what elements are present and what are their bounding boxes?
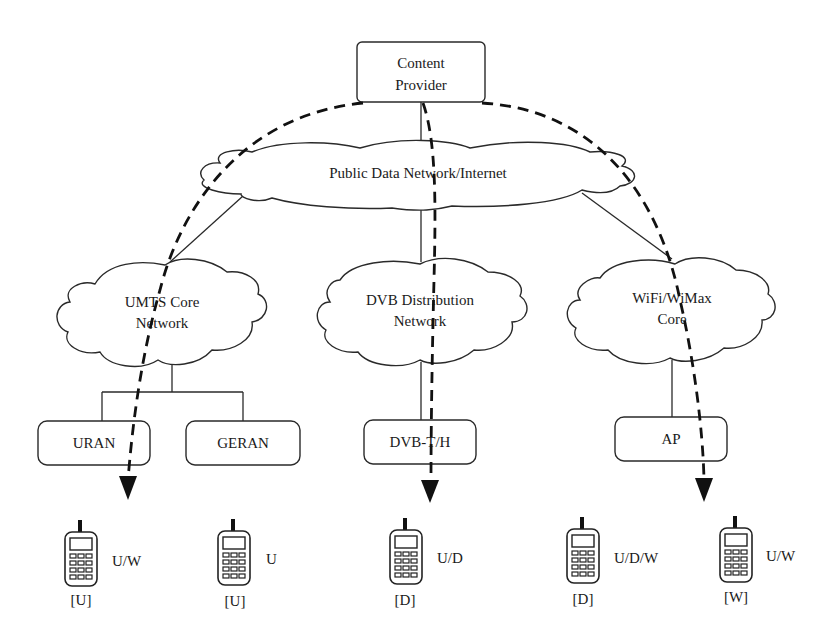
terminal-capability: U/W — [112, 553, 142, 569]
terminal-5: U/W [W] — [720, 516, 796, 605]
arrow-head-umts — [119, 476, 137, 500]
umts-core-label-2: Network — [136, 315, 189, 331]
content-provider-node: Content Provider — [357, 42, 485, 102]
wifi-wimax-label-1: WiFi/WiMax — [632, 290, 712, 306]
terminal-current-network: [D] — [573, 591, 594, 607]
terminal-capability: U/W — [766, 548, 796, 564]
geran-label: GERAN — [217, 435, 269, 451]
dvb-th-label: DVB-T/H — [390, 434, 451, 450]
umts-core-cloud: UMTS Core Network — [57, 259, 267, 366]
access-node-dvb-th: DVB-T/H — [364, 420, 476, 464]
mobile-phone-icon — [567, 517, 599, 583]
terminal-current-network: [W] — [724, 589, 748, 605]
terminal-capability: U/D — [437, 550, 463, 566]
terminal-current-network: [D] — [395, 592, 416, 608]
mobile-phone-icon — [65, 520, 97, 586]
terminal-capability: U/D/W — [614, 550, 659, 566]
ap-label: AP — [661, 431, 680, 447]
mobile-phone-icon — [218, 519, 250, 585]
terminal-current-network: [U] — [225, 593, 246, 609]
content-provider-label-2: Provider — [395, 77, 447, 93]
terminal-current-network: [U] — [71, 592, 92, 608]
access-node-ap: AP — [615, 417, 727, 461]
network-diagram: Content Provider Public Data Network/Int… — [0, 0, 839, 644]
dvb-distribution-cloud: DVB Distribution Network — [317, 258, 527, 365]
terminal-1: U/W [U] — [65, 520, 142, 608]
dvb-distribution-label-1: DVB Distribution — [366, 292, 474, 308]
terminal-2: U [U] — [218, 519, 277, 609]
terminal-capability: U — [266, 551, 277, 567]
dvb-distribution-label-2: Network — [394, 313, 447, 329]
umts-core-label-1: UMTS Core — [125, 294, 200, 310]
uran-label: URAN — [73, 435, 116, 451]
arrow-head-dvb — [421, 480, 439, 503]
internet-cloud: Public Data Network/Internet — [201, 140, 635, 210]
terminal-4: U/D/W [D] — [567, 517, 659, 607]
mobile-phone-icon — [390, 518, 422, 584]
internet-cloud-label: Public Data Network/Internet — [329, 165, 507, 181]
mobile-phone-icon — [720, 516, 752, 582]
wifi-wimax-core-cloud: WiFi/WiMax Core — [567, 258, 775, 364]
content-provider-label-1: Content — [397, 55, 445, 71]
terminal-3: U/D [D] — [390, 518, 463, 608]
access-node-geran: GERAN — [186, 421, 300, 465]
arrow-head-wifi — [695, 478, 713, 502]
